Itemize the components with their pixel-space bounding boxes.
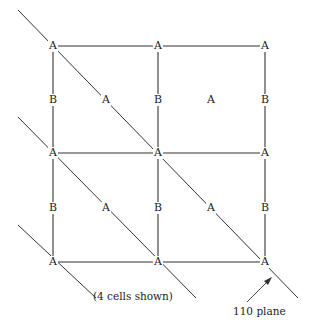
atom-a: A (153, 40, 163, 52)
atom-b: B (153, 202, 163, 214)
atom-a: A (101, 94, 111, 106)
atom-b: B (48, 202, 58, 214)
atom-a: A (206, 94, 216, 106)
atom-a: A (48, 40, 58, 52)
cells-caption: (4 cells shown) (93, 290, 173, 302)
plane-arrow (247, 277, 272, 302)
atom-a: A (101, 202, 111, 214)
atom-a: A (48, 256, 58, 268)
atom-a: A (153, 256, 163, 268)
atom-a: A (206, 202, 216, 214)
atom-a: A (153, 147, 163, 159)
atom-b: B (260, 94, 270, 106)
atom-a: A (48, 147, 58, 159)
atom-a: A (260, 147, 270, 159)
atom-b: B (48, 94, 58, 106)
atom-b: B (153, 94, 163, 106)
plane-caption: 110 plane (233, 305, 286, 317)
atom-a: A (260, 256, 270, 268)
atom-b: B (260, 202, 270, 214)
atom-a: A (260, 40, 270, 52)
